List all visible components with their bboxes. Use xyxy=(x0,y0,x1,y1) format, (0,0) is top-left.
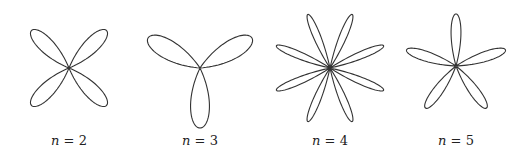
label-equals: = xyxy=(59,133,78,148)
label-equals: = xyxy=(446,133,465,148)
label-n5: n = 5 xyxy=(416,133,496,148)
label-n2: n = 2 xyxy=(29,133,109,148)
label-equals: = xyxy=(320,133,339,148)
label-value: 4 xyxy=(340,133,348,148)
label-value: 3 xyxy=(210,133,218,148)
label-n4: n = 4 xyxy=(290,133,370,148)
rose-curve-n5 xyxy=(406,14,505,108)
label-equals: = xyxy=(190,133,209,148)
rose-curve-n3 xyxy=(147,35,252,128)
label-n3: n = 3 xyxy=(160,133,240,148)
rose-curve-n2 xyxy=(30,29,107,106)
label-value: 5 xyxy=(466,133,474,148)
label-value: 2 xyxy=(79,133,87,148)
rose-curve-n4 xyxy=(276,14,383,121)
